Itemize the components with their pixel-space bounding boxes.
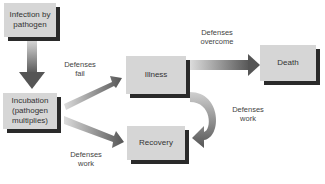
label-defenses-fail-line1: Defenses <box>58 60 102 69</box>
label-defenses-work-b-line2: work <box>226 114 270 123</box>
node-incubation: Incubation (pathogen multiplies) <box>3 93 57 129</box>
arrow-incubation-to-illness <box>64 76 122 110</box>
label-defenses-work-b-line1: Defenses <box>226 105 270 114</box>
label-defenses-work-incubation: Defenses work <box>64 150 108 168</box>
node-incubation-line3: multiplies) <box>12 116 49 126</box>
arrow-illness-to-death <box>190 54 260 76</box>
label-defenses-overcome-line1: Defenses <box>192 28 242 37</box>
node-death-label: Death <box>277 58 298 68</box>
label-defenses-work-illness: Defenses work <box>226 105 270 123</box>
node-illness: Illness <box>126 56 186 94</box>
node-illness-label: Illness <box>145 70 168 80</box>
node-death: Death <box>260 45 316 81</box>
label-defenses-fail-line2: fail <box>58 69 102 78</box>
label-defenses-work-a-line1: Defenses <box>64 150 108 159</box>
label-defenses-overcome: Defenses overcome <box>192 28 242 46</box>
node-incubation-line2: (pathogen <box>12 106 49 116</box>
arrow-illness-to-recovery <box>190 92 216 148</box>
node-infection: Infection by pathogen <box>4 3 56 37</box>
node-infection-line2: pathogen <box>10 20 51 30</box>
node-incubation-line1: Incubation <box>12 96 49 106</box>
node-recovery-label: Recovery <box>139 138 173 148</box>
label-defenses-work-a-line2: work <box>64 159 108 168</box>
arrow-infection-to-incubation <box>19 40 45 89</box>
label-defenses-overcome-line2: overcome <box>192 37 242 46</box>
node-recovery: Recovery <box>127 126 185 160</box>
arrow-incubation-to-recovery <box>64 116 124 148</box>
node-infection-line1: Infection by <box>10 10 51 20</box>
label-defenses-fail: Defenses fail <box>58 60 102 78</box>
